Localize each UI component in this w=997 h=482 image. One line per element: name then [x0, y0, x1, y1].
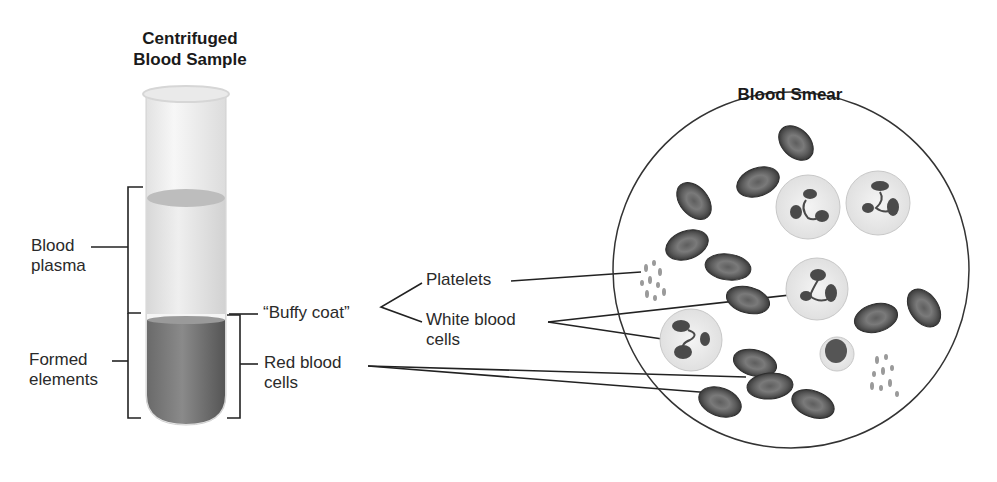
formed-elements-label: Formed elements	[29, 350, 98, 390]
smear-title: Blood Smear	[720, 84, 860, 105]
blood-plasma-label: Blood plasma	[31, 236, 86, 276]
formed-elements-bracket	[128, 313, 141, 418]
platelets-label: Platelets	[426, 270, 491, 290]
buffy-coat-fork	[381, 283, 422, 322]
red-blood-cells-label: Red blood cells	[264, 353, 342, 393]
diagram-artwork	[0, 0, 997, 482]
tube-title: Centrifuged Blood Sample	[110, 28, 270, 70]
buffy-coat-label: “Buffy coat”	[263, 303, 350, 323]
plasma-layer	[147, 198, 225, 316]
red-cells-layer	[147, 320, 225, 424]
test-tube	[143, 86, 229, 425]
tube-rim	[143, 86, 229, 102]
white-blood-cells-label: White blood cells	[426, 310, 516, 350]
plasma-bracket	[128, 187, 143, 313]
rbc-bracket	[227, 315, 240, 418]
